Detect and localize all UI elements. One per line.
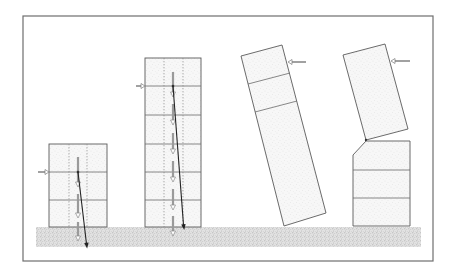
stability-diagram <box>0 0 456 272</box>
lower-block-outline <box>353 141 410 226</box>
diagram-canvas <box>0 0 456 272</box>
tall-building <box>136 58 201 236</box>
ground <box>36 227 421 247</box>
